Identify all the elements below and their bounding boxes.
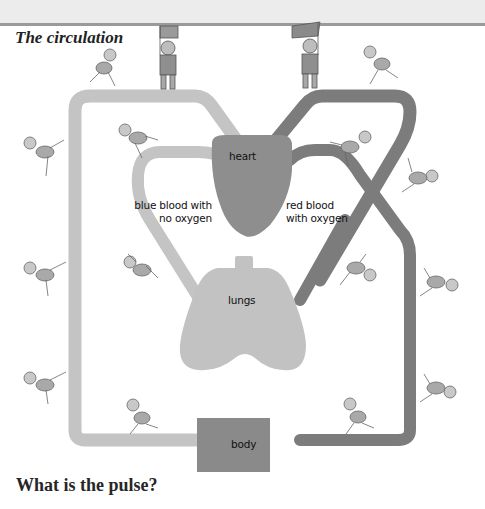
runner-figure <box>420 268 458 296</box>
runner-figure <box>340 254 376 285</box>
blue-blood-label-line1: blue blood with <box>130 199 212 212</box>
blue-blood-label: blue blood with no oxygen <box>130 199 212 225</box>
aorta-outer <box>272 96 410 280</box>
runner-figure <box>24 372 66 404</box>
red-blood-label: red blood with oxygen <box>286 199 348 225</box>
runner-figure <box>364 46 398 84</box>
runner-figure <box>124 254 158 278</box>
red-blood-label-line2: with oxygen <box>286 212 348 225</box>
runner-figure <box>24 262 66 296</box>
flag-bearer-right <box>292 22 320 88</box>
flag-bearer-left <box>160 26 178 89</box>
circulation-diagram <box>0 0 485 509</box>
runner-figure <box>127 399 158 434</box>
lungs-label: lungs <box>228 294 255 307</box>
runner-figure <box>90 49 116 86</box>
blue-blood-label-line2: no oxygen <box>130 212 212 225</box>
section-heading: What is the pulse? <box>16 475 158 496</box>
heart-label: heart <box>229 150 256 163</box>
red-blood-label-line1: red blood <box>286 199 348 212</box>
lungs-shape <box>180 256 306 370</box>
runner-figure <box>420 374 456 402</box>
runner-figure <box>24 137 64 176</box>
runner-figure <box>402 158 438 192</box>
runner-figure <box>344 398 374 434</box>
runners <box>24 46 458 434</box>
body-label: body <box>231 438 256 451</box>
